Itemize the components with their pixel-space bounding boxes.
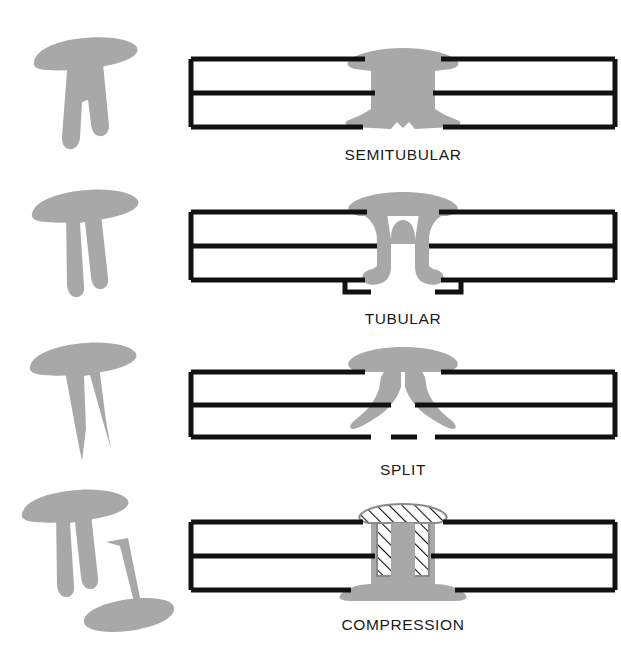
rivet-body [348, 192, 458, 285]
rivet-body [348, 347, 458, 429]
tubular-rivet-silhouette [10, 170, 180, 330]
compression-rivet-section [185, 480, 621, 608]
pin-core [391, 523, 415, 592]
caption-split: SPLIT [185, 461, 621, 479]
plate-outlines [191, 372, 615, 437]
rivet-row-semitubular: SEMITUBULAR [0, 14, 621, 174]
caption-semitubular: SEMITUBULAR [185, 146, 621, 164]
tubular-rivet-section [185, 170, 621, 298]
split-rivet-silhouette [10, 325, 180, 485]
rivet-row-split: SPLIT [0, 325, 621, 485]
split-rivet-section [185, 325, 621, 453]
diagram-sheet: SEMITUBULAR [0, 0, 621, 648]
semitubular-rivet-section [185, 14, 621, 142]
semitubular-rivet-silhouette [10, 14, 180, 174]
rivet-row-compression: COMPRESSION [0, 480, 621, 640]
caption-compression: COMPRESSION [185, 616, 621, 634]
rivet-row-tubular: TUBULAR [0, 170, 621, 330]
compression-rivet-silhouette [10, 480, 180, 640]
